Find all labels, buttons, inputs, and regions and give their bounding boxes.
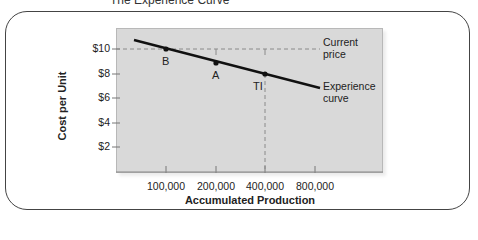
point-b [163, 46, 168, 51]
point-ti [262, 71, 267, 76]
point-label-a: A [212, 69, 219, 81]
point-a [213, 60, 218, 65]
current-price-annotation: Current price [323, 36, 373, 60]
experience-curve-annotation: Experience curve [323, 80, 383, 104]
y-tick-label: $2 [80, 140, 110, 152]
point-label-b: B [162, 55, 169, 67]
point-label-ti: TI [253, 80, 263, 92]
y-axis-label: Cost per Unit [56, 66, 68, 146]
y-tick-label: $8 [80, 67, 110, 79]
y-tick-label: $4 [80, 116, 110, 128]
y-tick-label: $10 [80, 42, 110, 54]
x-axis-label: Accumulated Production [160, 194, 340, 206]
x-tick-label: 800,000 [285, 180, 345, 192]
y-tick-label: $6 [80, 91, 110, 103]
y-tick-marks [112, 49, 120, 147]
